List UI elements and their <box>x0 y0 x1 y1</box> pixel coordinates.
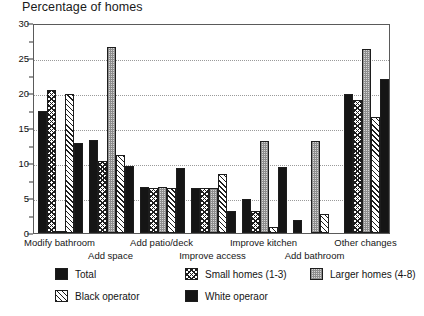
bar <box>56 231 65 233</box>
bar <box>218 174 227 233</box>
legend-item[interactable]: Small homes (1-3) <box>185 268 287 280</box>
bar <box>125 166 134 233</box>
bar <box>227 211 236 233</box>
legend-label: Total <box>75 269 96 280</box>
bar <box>242 199 251 233</box>
gridline <box>34 130 389 131</box>
bar-group <box>344 49 389 233</box>
bar <box>200 188 209 233</box>
bar-group <box>38 90 83 233</box>
bar <box>158 187 167 233</box>
chart-title: Percentage of homes <box>22 0 143 14</box>
bar-group <box>242 141 287 233</box>
bar <box>149 188 158 234</box>
x-tick-label: Add space <box>88 250 133 261</box>
bar <box>191 188 200 233</box>
bar-group <box>89 47 134 233</box>
legend-item[interactable]: Black operator <box>55 290 139 302</box>
bar <box>311 141 320 233</box>
bar-group <box>140 168 185 233</box>
bar <box>107 47 116 233</box>
bar <box>269 227 278 233</box>
bar <box>65 94 74 233</box>
x-tick-label: Add patio/deck <box>130 237 193 248</box>
bar <box>167 188 176 234</box>
bar <box>251 211 260 233</box>
bar <box>74 143 83 233</box>
legend-label: White operaor <box>205 291 268 302</box>
legend-label: Black operator <box>75 291 139 302</box>
legend-item[interactable]: White operaor <box>185 290 268 302</box>
legend-item[interactable]: Larger homes (4-8) <box>310 268 416 280</box>
gridline <box>34 60 389 61</box>
legend-item[interactable]: Total <box>55 268 96 280</box>
chart-legend: TotalSmall homes (1-3)Larger homes (4-8)… <box>55 268 410 312</box>
bar <box>344 94 353 233</box>
legend-label: Larger homes (4-8) <box>330 269 416 280</box>
bar <box>293 220 302 233</box>
x-tick-label: Improve kitchen <box>230 237 297 248</box>
bar <box>38 111 47 233</box>
bar <box>209 188 218 233</box>
bar <box>260 141 269 233</box>
x-axis-labels: Modify bathroomAdd spaceAdd patio/deckIm… <box>0 236 424 266</box>
bar-group <box>293 141 338 233</box>
legend-swatch-icon <box>310 268 323 280</box>
bar <box>278 167 287 233</box>
bar <box>380 79 389 233</box>
bar <box>371 117 380 233</box>
bar <box>140 187 149 233</box>
legend-swatch-icon <box>55 268 68 280</box>
bar <box>320 214 329 233</box>
bar-group <box>191 174 236 233</box>
bar <box>116 155 125 233</box>
bar <box>353 100 362 233</box>
legend-swatch-icon <box>55 290 68 302</box>
plot-area <box>33 24 390 234</box>
bar <box>362 49 371 233</box>
bar-chart: Percentage of homes 051015202530 Modify … <box>0 0 424 316</box>
bar <box>98 161 107 233</box>
legend-swatch-icon <box>185 268 198 280</box>
bar <box>47 90 56 233</box>
legend-label: Small homes (1-3) <box>205 269 287 280</box>
x-tick-label: Other changes <box>334 237 396 248</box>
gridline <box>34 95 389 96</box>
legend-swatch-icon <box>185 290 198 302</box>
x-tick-label: Add bathroom <box>285 250 345 261</box>
bar <box>89 140 98 233</box>
x-tick-label: Improve access <box>179 250 246 261</box>
y-axis: 051015202530 <box>0 0 33 236</box>
bar <box>176 168 185 233</box>
x-tick-label: Modify bathroom <box>24 237 95 248</box>
